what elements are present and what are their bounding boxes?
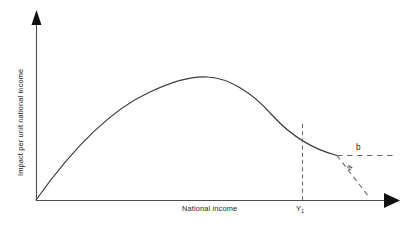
impact-curve	[36, 77, 337, 200]
up-arrow-icon	[32, 10, 42, 25]
x-axis-title: National income	[182, 204, 237, 213]
dashed-branch-a	[337, 156, 369, 198]
chart-canvas	[0, 0, 419, 226]
figure-container: Impact per unit national income National…	[0, 0, 419, 226]
y1-tick-label: Y1	[296, 204, 304, 213]
right-arrow-icon	[384, 193, 400, 208]
y1-subscript: 1	[301, 208, 304, 214]
y-axis-title: Impact per unit national income	[16, 16, 28, 176]
branch-label-b: b	[356, 143, 361, 152]
